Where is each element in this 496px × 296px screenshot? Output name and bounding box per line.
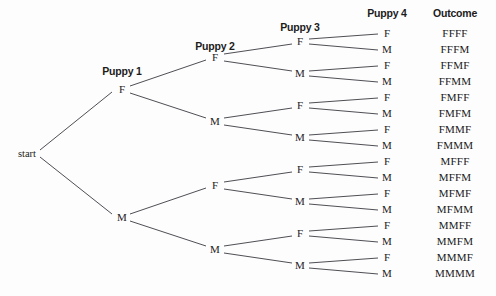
tree-edge [309,268,378,274]
tree-node-puppy-4-1: M [382,43,392,55]
tree-edge [309,76,378,82]
tree-edge [224,61,292,71]
tree-node-puppy-4-14: F [384,251,390,263]
outcome-item: MFFM [439,171,472,183]
tree-node-puppy-2-2: F [212,179,218,191]
tree-edge [40,92,112,150]
tree-edge [224,236,292,246]
tree-node-puppy-4-6: F [384,123,390,135]
outcome-item: FFMF [441,59,470,71]
tree-node-puppy-1-0: F [119,83,125,95]
outcome-item: MMFM [437,235,473,247]
tree-edge [224,189,292,199]
tree-edge [309,130,378,135]
outcome-item: FMMF [439,123,472,135]
tree-node-puppy-2-1: M [210,115,220,127]
tree-node-puppy-4-12: F [384,219,390,231]
tree-node-puppy-4-7: M [382,139,392,151]
tree-diagram-canvas: Puppy 1Puppy 2Puppy 3Puppy 4Outcome FMFM… [0,0,496,296]
tree-edge [309,204,378,210]
outcome-item: MFMM [437,203,473,215]
column-header-outcome: Outcome [433,7,477,19]
tree-edge [309,258,378,263]
start-node: start [18,148,36,159]
outcome-item: MMFF [439,219,472,231]
tree-edge [130,221,206,246]
tree-node-puppy-2-0: F [212,51,218,63]
outcome-item: MMMF [437,251,473,263]
tree-node-puppy-4-10: F [384,187,390,199]
tree-edge [224,108,292,118]
tree-node-puppy-4-0: F [384,27,390,39]
tree-node-puppy-4-4: F [384,91,390,103]
outcome-item: MFFF [441,155,470,167]
tree-edge [309,66,378,71]
tree-node-puppy-4-5: M [382,107,392,119]
tree-edge [130,188,206,214]
tree-edge [309,140,378,146]
tree-edge [130,93,206,118]
tree-edge [309,172,378,178]
tree-node-puppy-4-3: M [382,75,392,87]
outcome-item: MFMF [439,187,472,199]
column-header-puppy-1: Puppy 1 [102,65,141,77]
tree-edge [309,108,378,114]
tree-edge [309,98,378,103]
edge-group [40,34,378,274]
tree-node-puppy-3-7: M [295,259,305,271]
tree-edge [309,34,378,39]
tree-node-puppy-4-8: F [384,155,390,167]
tree-edge [309,162,378,167]
column-header-puppy-3: Puppy 3 [280,21,319,33]
tree-node-puppy-3-3: M [295,131,305,143]
tree-edge [309,194,378,199]
tree-node-puppy-3-4: F [297,163,303,175]
outcome-item: MMMM [435,267,475,279]
outcome-item: FFMM [439,75,472,87]
outcome-item: FMMM [437,139,473,151]
tree-edges-layer [0,0,496,296]
tree-edge [309,226,378,231]
tree-node-puppy-3-6: F [297,227,303,239]
outcome-item: FMFF [441,91,470,103]
tree-node-puppy-3-0: F [297,35,303,47]
tree-edge [309,236,378,242]
tree-edge [224,125,292,135]
outcome-item: FMFM [439,107,472,119]
tree-node-puppy-4-11: M [382,203,392,215]
tree-node-puppy-2-3: M [210,243,220,255]
tree-edge [40,157,112,214]
tree-node-puppy-4-9: M [382,171,392,183]
tree-node-puppy-3-5: M [295,195,305,207]
tree-node-puppy-4-13: M [382,235,392,247]
tree-node-puppy-4-2: F [384,59,390,71]
outcome-item: FFFM [441,43,470,55]
tree-edge [224,172,292,182]
tree-node-puppy-4-15: M [382,267,392,279]
column-header-puppy-4: Puppy 4 [367,7,406,19]
outcome-item: FFFF [442,27,467,39]
tree-edge [224,253,292,263]
tree-edge [309,44,378,50]
tree-node-puppy-3-2: F [297,99,303,111]
tree-node-puppy-3-1: M [295,67,305,79]
tree-node-puppy-1-1: M [117,211,127,223]
